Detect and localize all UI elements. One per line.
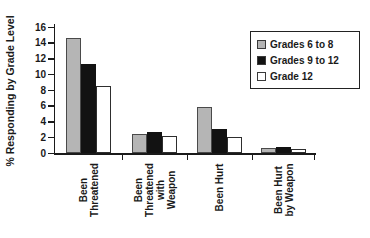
y-axis-tick-label: 8 [20,85,46,96]
bar-grades-9-to-12 [147,132,162,153]
y-axis-line [54,24,56,155]
bar-grades-9-to-12 [276,147,291,153]
bar-grades-9-to-12 [212,129,227,153]
x-axis-line [54,153,316,155]
x-category-label: Been Threatened with Weapon [132,163,176,217]
legend-item: Grade 12 [257,68,354,84]
y-axis-tick [48,137,54,139]
y-axis-tick-label: 4 [20,116,46,127]
x-axis-tick [314,155,316,160]
bar-grade-12 [96,86,111,153]
bar-grades-6-to-8 [197,107,212,153]
y-axis-tick [48,74,54,76]
y-axis-tick-label: 2 [20,132,46,143]
bar-grades-6-to-8 [132,134,147,153]
y-axis-tick-label: 6 [20,100,46,111]
x-axis-tick [122,155,124,160]
y-axis-tick [48,90,54,92]
x-axis-tick [252,155,254,160]
legend-swatch-icon [257,40,266,49]
y-axis-tick-label: 12 [20,53,46,64]
y-axis-tick [48,58,54,60]
y-axis-tick-label: 0 [20,148,46,159]
legend: Grades 6 to 8Grades 9 to 12Grade 12 [250,31,360,89]
y-axis-tick [48,27,54,29]
bar-grades-6-to-8 [261,148,276,153]
legend-label: Grade 12 [270,71,313,82]
y-axis-title: % Responding by Grade Level [3,15,15,166]
x-axis-tick [187,155,189,160]
bar-grade-12 [162,136,177,153]
legend-item: Grades 6 to 8 [257,36,354,52]
y-axis-tick-label: 16 [20,22,46,33]
legend-item: Grades 9 to 12 [257,52,354,68]
x-category-label: Been Hurt [214,163,225,211]
y-axis-tick [48,42,54,44]
x-category-label: Been Threatened [77,163,99,217]
bar-grade-12 [227,137,242,153]
bar-grades-9-to-12 [81,64,96,153]
y-axis-tick [48,105,54,107]
bar-chart-figure: % Responding by Grade Level 024681012141… [0,0,370,238]
legend-label: Grades 9 to 12 [270,55,339,66]
legend-label: Grades 6 to 8 [270,39,333,50]
legend-swatch-icon [257,56,266,65]
y-axis-tick [48,153,54,155]
x-category-label: Been Hurt by Weapon [272,163,294,216]
bar-grade-12 [291,149,306,153]
y-axis-tick-label: 10 [20,69,46,80]
y-axis-tick-label: 14 [20,37,46,48]
legend-swatch-icon [257,72,266,81]
y-axis-tick [48,121,54,123]
bar-grades-6-to-8 [66,38,81,153]
